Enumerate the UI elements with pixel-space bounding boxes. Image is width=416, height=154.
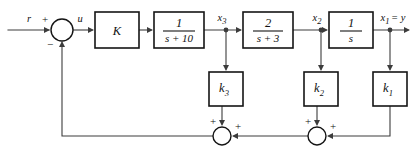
block-diagram-container: K 1 s + 10 2 s + 3 1 s k3 <box>0 0 416 154</box>
arrowhead-sum-right-top <box>314 120 320 126</box>
sum-left-plus-side: + <box>235 120 241 132</box>
gain-K-label: K <box>112 24 122 38</box>
arrowhead-sum-left-side <box>232 133 238 139</box>
sum-left-plus-top: + <box>210 115 216 127</box>
sum-right-plus-side: + <box>330 120 336 132</box>
arrowhead-error-junction-feedback <box>59 41 65 47</box>
arrowhead-gain-K-input <box>88 27 94 33</box>
feedback-gain-k1-block[interactable]: k1 <box>373 72 407 106</box>
tap-x1-dot <box>388 28 393 33</box>
arrowhead-sum-left-top <box>219 120 225 126</box>
arrowhead-plant2-input <box>236 27 242 33</box>
feedback-gain-k2-block[interactable]: k2 <box>304 72 338 106</box>
arrowhead-k2-input <box>318 65 324 71</box>
signal-label-x3: x3 <box>217 12 227 26</box>
signal-label-r: r <box>27 13 32 24</box>
plant-pole-10-numerator: 1 <box>176 16 182 30</box>
gain-K-block[interactable]: K <box>95 12 139 48</box>
arrowhead-reference-input <box>44 27 50 33</box>
plant-pole-10-denominator: s + 10 <box>165 32 194 44</box>
tap-x2-dot <box>319 28 324 33</box>
feedback-summing-junction-right-circle <box>308 127 326 145</box>
wire-k1-to-sum-right <box>329 106 390 136</box>
error-summing-junction-circle <box>51 19 73 41</box>
tap-x3-dot <box>224 28 229 33</box>
plant-pole-3-denominator: s + 3 <box>257 32 280 44</box>
error-junction-minus-sign: − <box>47 38 53 50</box>
integrator-block[interactable]: 1 s <box>329 12 373 48</box>
signal-label-u: u <box>77 13 82 24</box>
feedback-summing-junction-right[interactable]: + + <box>305 115 336 145</box>
sum-right-plus-top: + <box>305 115 311 127</box>
block-diagram-canvas: K 1 s + 10 2 s + 3 1 s k3 <box>0 0 416 154</box>
integrator-numerator: 1 <box>348 16 354 30</box>
arrowhead-k3-input <box>223 65 229 71</box>
signal-label-x2: x2 <box>312 12 323 26</box>
arrowhead-sum-right-side <box>327 133 333 139</box>
plant-pole-10-block[interactable]: 1 s + 10 <box>154 12 204 48</box>
error-junction-plus-sign: + <box>42 13 48 25</box>
integrator-denominator: s <box>349 32 353 44</box>
wire-outer-feedback-path <box>62 43 213 136</box>
arrowhead-k1-input <box>387 65 393 71</box>
feedback-gain-k3-block[interactable]: k3 <box>209 72 243 106</box>
plant-pole-3-block[interactable]: 2 s + 3 <box>243 12 293 48</box>
arrowhead-output <box>404 27 410 33</box>
feedback-summing-junction-left-circle <box>213 127 231 145</box>
signal-label-x1-output: x1= y <box>380 12 406 26</box>
plant-pole-3-numerator: 2 <box>265 16 271 30</box>
arrowhead-plant1-input <box>147 27 153 33</box>
feedback-summing-junction-left[interactable]: + + <box>210 115 241 145</box>
